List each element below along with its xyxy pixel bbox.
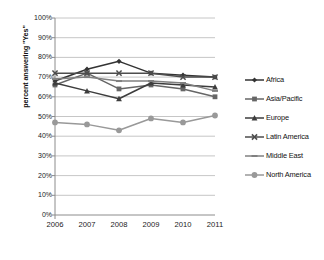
data-point-marker [116, 127, 122, 133]
data-point-marker [52, 120, 58, 126]
legend-marker-dash-icon [245, 150, 264, 162]
legend-item-label: Middle East [266, 151, 303, 160]
line-chart: percent answering "Yes" 0%10%20%30%40%50… [0, 0, 324, 260]
data-point-marker [84, 121, 90, 127]
legend-item-africa[interactable]: Africa [245, 70, 324, 89]
legend-item-label: North America [266, 170, 311, 179]
legend-marker-circle-icon [245, 169, 264, 181]
legend-item-label: Africa [266, 75, 284, 84]
legend-item-asia-pacific[interactable]: Asia/Pacific [245, 89, 324, 108]
data-point-marker [148, 80, 154, 82]
chart-legend: AfricaAsia/PacificEuropeLatin AmericaMid… [245, 70, 324, 184]
legend-item-label: Europe [266, 113, 289, 122]
legend-item-latin-america[interactable]: Latin America [245, 127, 324, 146]
series-africa [52, 59, 217, 84]
data-point-marker [213, 94, 218, 99]
legend-marker-square-icon [245, 93, 264, 105]
data-point-marker [252, 77, 257, 82]
series-line [55, 116, 215, 131]
x-axis-tick-label: 2011 [195, 220, 235, 229]
legend-item-middle-east[interactable]: Middle East [245, 146, 324, 165]
y-axis-tick-label: 40% [24, 132, 52, 139]
legend-item-north-america[interactable]: North America [245, 165, 324, 184]
legend-item-europe[interactable]: Europe [245, 108, 324, 127]
y-axis-tick-label: 80% [24, 53, 52, 60]
y-axis-tick-label: 10% [24, 191, 52, 198]
data-point-marker [117, 87, 122, 92]
series-north-america [52, 113, 218, 134]
data-point-marker [148, 116, 154, 122]
y-axis-tick-label: 50% [24, 113, 52, 120]
data-point-marker [212, 113, 218, 119]
y-axis-tick-label: 0% [24, 211, 52, 218]
data-point-marker [180, 82, 186, 84]
series-middle-east [52, 76, 218, 92]
data-point-marker [116, 59, 121, 64]
data-point-marker [52, 78, 58, 80]
y-axis-tick-label: 20% [24, 172, 52, 179]
data-point-marker [180, 120, 186, 126]
legend-marker-cross-icon [245, 131, 264, 143]
y-axis-tick-label: 100% [24, 14, 52, 21]
y-axis-tick-label: 60% [24, 93, 52, 100]
data-point-marker [252, 155, 258, 157]
y-axis-tick-label: 90% [24, 34, 52, 41]
y-axis-tick-label: 30% [24, 152, 52, 159]
data-point-marker [252, 96, 257, 101]
y-axis-tick-label: 70% [24, 73, 52, 80]
legend-marker-triangle-icon [245, 112, 264, 124]
data-point-marker [252, 172, 258, 178]
data-point-marker [212, 90, 218, 92]
legend-item-label: Asia/Pacific [266, 94, 302, 103]
data-point-marker [84, 76, 90, 78]
legend-marker-diamond-icon [245, 74, 264, 86]
legend-item-label: Latin America [266, 132, 309, 141]
data-point-marker [116, 80, 122, 82]
